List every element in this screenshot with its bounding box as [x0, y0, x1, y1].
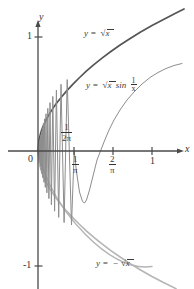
- origin-label: 0: [28, 154, 33, 164]
- curve-label-lower-envelope: y = − √x: [96, 259, 130, 268]
- fraction-denominator: 2π: [61, 132, 72, 143]
- fraction-numerator: 1: [131, 77, 137, 84]
- annotation-1-over-2pi: 1 2π: [61, 124, 72, 144]
- squeeze-theorem-plot: [0, 0, 194, 289]
- trig-argument-fraction: 1 x: [131, 77, 137, 93]
- curve-label-upper-envelope: y = √x: [84, 29, 110, 38]
- sqrt-icon: √x: [101, 29, 110, 38]
- sqrt-icon: √x: [121, 259, 130, 268]
- x-tick-label-1: 1: [150, 156, 155, 166]
- y-tick-label-1: 1: [27, 31, 32, 41]
- fraction-numerator: 1: [72, 155, 79, 164]
- y-tick-label-minus-1: -1: [23, 260, 31, 270]
- minus-sign: −: [113, 258, 119, 268]
- fraction-denominator: x: [131, 84, 137, 93]
- fraction-numerator: 2: [109, 155, 116, 164]
- fraction-numerator: 1: [61, 123, 72, 132]
- x-axis-arrowhead: [177, 148, 184, 153]
- sqrt-icon: √x: [103, 81, 112, 90]
- fraction-denominator: π: [109, 164, 116, 175]
- curve-label-lhs: y =: [84, 28, 96, 38]
- x-tick-label-2-over-pi: 2 π: [109, 156, 116, 176]
- fraction-denominator: π: [72, 164, 79, 175]
- curve-label-lhs: y =: [86, 80, 98, 90]
- curve-label-oscillating: y = √x sin 1 x: [86, 78, 137, 94]
- x-tick-label-1-over-pi: 1 π: [72, 156, 79, 176]
- x-axis-label: x: [185, 144, 189, 154]
- curve-label-lhs: y =: [96, 258, 108, 268]
- trig-function-name: sin: [116, 80, 127, 90]
- y-axis-label: y: [39, 12, 43, 22]
